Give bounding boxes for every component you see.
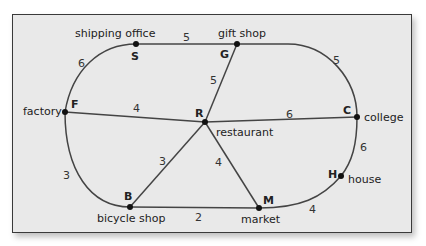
weight-R-B: 3 xyxy=(159,155,166,168)
edge-C-H xyxy=(341,117,357,176)
graph-diagram: S G C H M B F R shipping office gift sho… xyxy=(0,0,426,246)
node-S xyxy=(133,41,139,47)
weight-S-G: 5 xyxy=(183,31,190,44)
node-code-G: G xyxy=(220,48,229,61)
node-F xyxy=(62,109,68,115)
edge-R-C xyxy=(205,117,357,122)
edge-M-B xyxy=(130,207,259,208)
weight-F-R: 4 xyxy=(133,102,140,115)
node-code-C: C xyxy=(343,104,351,117)
node-code-M: M xyxy=(263,194,274,207)
weight-R-C: 6 xyxy=(286,108,293,121)
weight-F-S: 6 xyxy=(78,57,85,70)
node-label-gift-shop: gift shop xyxy=(218,27,266,40)
weight-C-H: 6 xyxy=(360,141,367,154)
node-code-R: R xyxy=(195,107,204,120)
weight-G-C: 5 xyxy=(333,54,340,67)
node-M xyxy=(256,205,262,211)
node-label-shipping-office: shipping office xyxy=(75,27,156,40)
weight-G-R: 5 xyxy=(210,74,217,87)
weight-R-M: 4 xyxy=(215,156,222,169)
node-code-S: S xyxy=(131,50,139,63)
node-code-F: F xyxy=(71,98,79,111)
node-label-college: college xyxy=(364,111,404,124)
node-label-house: house xyxy=(348,173,381,186)
edge-B-F xyxy=(65,112,130,207)
weight-M-B: 2 xyxy=(195,211,202,224)
node-G xyxy=(234,41,240,47)
node-label-market: market xyxy=(241,213,281,226)
node-label-restaurant: restaurant xyxy=(216,126,274,139)
node-code-H: H xyxy=(328,168,337,181)
weight-H-M: 4 xyxy=(309,203,316,216)
node-code-B: B xyxy=(124,190,132,203)
edge-R-B xyxy=(130,122,205,207)
node-H xyxy=(338,173,344,179)
node-label-bicycle-shop: bicycle shop xyxy=(97,212,165,225)
node-C xyxy=(354,114,360,120)
node-B xyxy=(127,204,133,210)
node-label-factory: factory xyxy=(23,105,62,118)
weight-B-F: 3 xyxy=(63,169,70,182)
